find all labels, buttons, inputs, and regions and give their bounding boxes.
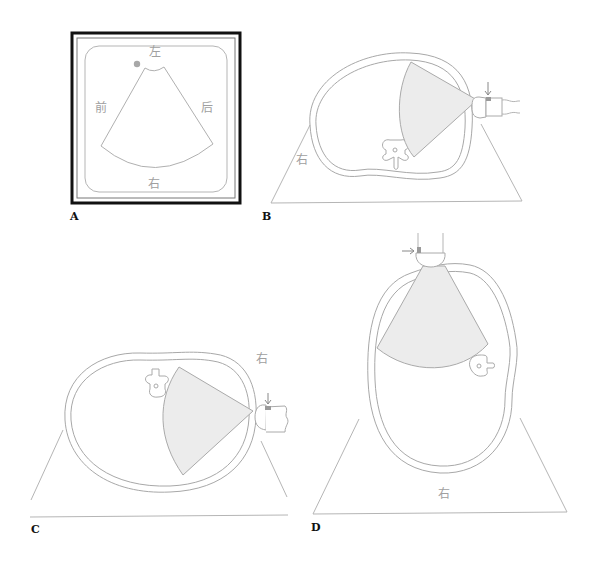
bed-plane-left-edge [31,430,63,500]
probe-cable [502,100,520,114]
panel-a: 左 前 后 右 A [69,33,240,223]
side-label-right: 右 [256,351,268,366]
probe-head [255,405,266,430]
screen-inner-frame [77,38,235,198]
orientation-marker-dot [134,61,140,67]
spinal-canal [477,364,481,368]
side-label-right: 右 [438,486,450,501]
vertebra [469,355,494,376]
screen-display-area [85,46,227,192]
orientation-label-left: 前 [95,100,107,115]
panel-label-a: A [69,210,79,223]
spinal-canal [393,148,397,152]
ultrasound-beam-sector [399,62,477,157]
arrow-icon [485,82,491,95]
bed-plane-right-edge [261,441,287,497]
orientation-label-right: 后 [201,101,213,115]
arrow-icon [402,248,414,254]
orientation-label-bottom: 右 [148,176,160,191]
ultrasound-beam-sector [377,266,488,368]
figure-canvas: 左 前 后 右 A 右 B [0,0,600,561]
probe-orientation-mark [417,247,421,253]
arrow-icon [265,393,271,404]
panel-c: 右 C [30,351,288,536]
vertebra [383,140,409,170]
panel-label-c: C [31,523,40,536]
panel-d: 右 D [311,233,567,534]
probe-orientation-mark [265,406,271,410]
probe-orientation-mark [486,97,491,101]
sector-image-outline [101,67,213,168]
spinal-canal [154,384,158,388]
probe-head [472,97,486,118]
vertebra [145,369,168,397]
ultrasound-beam-sector [163,367,253,475]
orientation-label-top: 左 [149,44,161,59]
probe-body [418,233,443,253]
panel-b: 右 B [262,53,522,223]
side-label-right: 右 [296,152,308,167]
panel-label-b: B [262,210,271,223]
panel-label-d: D [311,521,321,534]
bed-plane-base [30,515,288,517]
